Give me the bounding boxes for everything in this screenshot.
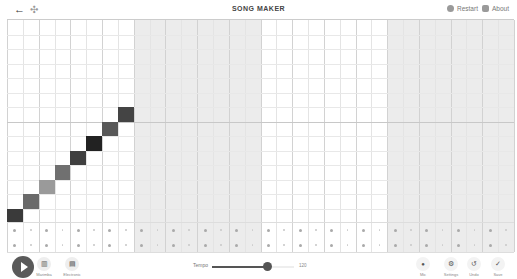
note-cell[interactable] <box>118 107 134 122</box>
grid-row-line <box>7 180 514 181</box>
percussion-dot[interactable] <box>379 244 381 246</box>
percussion-dot[interactable] <box>347 229 349 231</box>
percussion-dot[interactable] <box>172 229 175 232</box>
save-button[interactable]: ✓ <box>491 257 505 271</box>
percussion-dot[interactable] <box>347 244 349 246</box>
percussion-dot[interactable] <box>362 229 365 232</box>
percussion-dot[interactable] <box>13 244 16 247</box>
grid-row-line <box>7 209 514 210</box>
mic-icon: ● <box>421 261 425 267</box>
percussion-dot[interactable] <box>220 244 222 246</box>
percussion-dot[interactable] <box>410 229 412 231</box>
percussion-dot[interactable] <box>172 244 175 247</box>
percussion-dot[interactable] <box>457 229 460 232</box>
tempo-slider-fill <box>212 266 268 268</box>
percussion-dot[interactable] <box>252 229 254 231</box>
grid-row-line <box>7 107 514 108</box>
note-cell[interactable] <box>23 194 39 209</box>
percussion-grid[interactable] <box>7 222 514 253</box>
percussion-dot[interactable] <box>489 229 492 232</box>
play-button[interactable] <box>12 256 34 278</box>
restart-button[interactable]: Restart <box>447 5 478 12</box>
undo-icon: ↺ <box>471 260 477 268</box>
percussion-dot[interactable] <box>410 244 412 246</box>
percussion-dot[interactable] <box>77 244 80 247</box>
percussion-dot[interactable] <box>330 244 333 247</box>
about-icon <box>482 5 489 12</box>
instrument-button[interactable]: ▥ <box>37 257 51 271</box>
percussion-dot[interactable] <box>45 244 48 247</box>
note-cell[interactable] <box>7 209 23 224</box>
note-cell[interactable] <box>70 151 86 166</box>
grid-row-line <box>7 136 514 137</box>
about-label: About <box>492 5 509 12</box>
percussion-dot[interactable] <box>489 244 492 247</box>
percussion-dot[interactable] <box>157 229 159 231</box>
percussion-dot[interactable] <box>442 229 444 231</box>
percussion-dot[interactable] <box>379 229 381 231</box>
percussion-dot[interactable] <box>125 229 127 231</box>
percussion-dot[interactable] <box>30 229 32 231</box>
percussion-dot[interactable] <box>140 244 143 247</box>
percussion-dot[interactable] <box>442 244 444 246</box>
percussion-dot[interactable] <box>108 244 111 247</box>
percussion-dot[interactable] <box>457 244 460 247</box>
percussion-dot[interactable] <box>267 244 270 247</box>
percussion-dot[interactable] <box>425 229 428 232</box>
percussion-dot[interactable] <box>330 229 333 232</box>
percussion-dot[interactable] <box>394 229 397 232</box>
instrument-label: Marimba <box>36 272 52 277</box>
note-cell[interactable] <box>86 136 102 151</box>
percussion-dot[interactable] <box>235 244 238 247</box>
octave-divider <box>7 122 514 123</box>
percussion-dot[interactable] <box>425 244 428 247</box>
grid-row-line <box>7 49 514 50</box>
percussion-dot[interactable] <box>188 229 190 231</box>
percussion-dot[interactable] <box>108 229 111 232</box>
percussion-dot[interactable] <box>62 244 64 246</box>
percussion-dot[interactable] <box>93 229 95 231</box>
tempo-slider[interactable] <box>212 266 294 268</box>
percussion-dot[interactable] <box>62 229 64 231</box>
percussion-dot[interactable] <box>140 229 143 232</box>
melody-grid[interactable] <box>7 20 514 223</box>
percussion-dot[interactable] <box>235 229 238 232</box>
percussion-dot[interactable] <box>220 229 222 231</box>
percussion-dot[interactable] <box>77 229 80 232</box>
percussion-dot[interactable] <box>13 229 16 232</box>
note-cell[interactable] <box>102 122 118 137</box>
percussion-dot[interactable] <box>93 244 95 246</box>
percussion-dot[interactable] <box>125 244 127 246</box>
percussion-button[interactable]: ▤ <box>65 257 79 271</box>
percussion-dot[interactable] <box>505 229 507 231</box>
percussion-dot[interactable] <box>188 244 190 246</box>
about-button[interactable]: About <box>482 5 509 12</box>
settings-button[interactable]: ⚙ <box>444 257 458 271</box>
percussion-dot[interactable] <box>204 229 207 232</box>
mic-label: Mic <box>420 272 426 277</box>
undo-button[interactable]: ↺ <box>467 257 481 271</box>
percussion-dot[interactable] <box>30 244 32 246</box>
tempo-slider-thumb[interactable] <box>263 262 272 271</box>
percussion-dot[interactable] <box>299 244 302 247</box>
percussion-dot[interactable] <box>204 244 207 247</box>
percussion-dot[interactable] <box>45 229 48 232</box>
note-cell[interactable] <box>39 180 55 195</box>
percussion-dot[interactable] <box>252 244 254 246</box>
percussion-dot[interactable] <box>315 244 317 246</box>
percussion-dot[interactable] <box>362 244 365 247</box>
percussion-dot[interactable] <box>394 244 397 247</box>
mic-button[interactable]: ● <box>416 257 430 271</box>
percussion-dot[interactable] <box>299 229 302 232</box>
percussion-dot[interactable] <box>283 244 285 246</box>
percussion-dot[interactable] <box>474 229 476 231</box>
percussion-dot[interactable] <box>505 244 507 246</box>
percussion-dot[interactable] <box>157 244 159 246</box>
percussion-dot[interactable] <box>474 244 476 246</box>
undo-label: Undo <box>469 272 479 277</box>
percussion-dot[interactable] <box>283 229 285 231</box>
note-cell[interactable] <box>55 165 71 180</box>
percussion-dot[interactable] <box>267 229 270 232</box>
percussion-dot[interactable] <box>315 229 317 231</box>
grid-row-line <box>7 35 514 36</box>
